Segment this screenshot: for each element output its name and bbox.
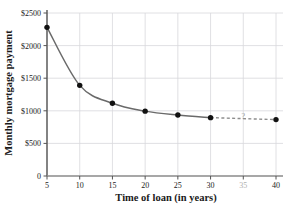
x-tick-label: 5 xyxy=(45,181,49,190)
mortgage-payment-chart: 0$500$1000$1500$2000$2500 51015202530354… xyxy=(0,0,293,208)
solid-curve-path xyxy=(47,27,211,117)
x-axis-title: Time of loan (in years) xyxy=(115,192,217,204)
data-point-marker xyxy=(208,115,213,120)
axis-lines xyxy=(47,10,283,176)
y-tick-label: $500 xyxy=(25,139,41,148)
x-tick-label: 20 xyxy=(141,181,149,190)
data-point-marker xyxy=(44,25,49,30)
x-tick-label: 40 xyxy=(272,181,280,190)
data-point-marker xyxy=(142,108,147,113)
y-axis-tick-labels: 0$500$1000$1500$2000$2500 xyxy=(21,9,41,181)
chart-canvas: 0$500$1000$1500$2000$2500 51015202530354… xyxy=(0,0,293,208)
x-tick-label: 25 xyxy=(174,181,182,190)
x-tick-label: 35 xyxy=(239,181,247,190)
y-tick-label: $1000 xyxy=(21,107,41,116)
data-point-marker xyxy=(273,117,278,122)
y-tick-label: $2500 xyxy=(21,9,41,18)
data-point-marker xyxy=(77,83,82,88)
y-tick-label: 0 xyxy=(37,172,41,181)
x-tick-label: 30 xyxy=(207,181,215,190)
data-point-marker xyxy=(175,112,180,117)
grid-lines xyxy=(47,13,283,176)
y-axis-title: Monthly mortgage payment xyxy=(3,30,14,156)
x-tick-label: 15 xyxy=(108,181,116,190)
y-tick-label: $2000 xyxy=(21,42,41,51)
unknown-value-annotation: ? xyxy=(242,112,246,121)
x-tick-label: 10 xyxy=(76,181,84,190)
y-tick-label: $1500 xyxy=(21,74,41,83)
data-point-marker xyxy=(110,101,115,106)
x-axis-tick-labels: 510152025303540 xyxy=(45,181,280,190)
